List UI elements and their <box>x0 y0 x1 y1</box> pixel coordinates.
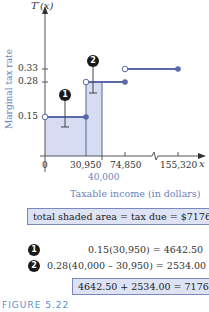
badge-1: 1 <box>59 89 71 101</box>
y-tick-028: 0.28 <box>18 76 38 86</box>
y-tick-015: 0.15 <box>18 111 38 121</box>
y-axis-label: Marginal tax rate <box>4 44 14 134</box>
eq-badge-1: 1 <box>28 244 40 256</box>
equation-1: 0.15(30,950) = 4642.50 <box>88 244 203 255</box>
total-box: total shaded area = tax due = $7176.50 <box>27 208 209 225</box>
badge-2: 2 <box>87 55 99 67</box>
x-axis-label: Taxable income (in dollars) <box>70 188 200 199</box>
equation-2: 0.28(40,000 – 30,950) = 2534.00 <box>47 260 206 271</box>
x-tick-74850: 74,850 <box>110 160 142 170</box>
eq-badge-2: 2 <box>28 260 40 272</box>
sum-box: 4642.50 + 2534.00 = 7176.50 <box>72 278 209 295</box>
x-tick-0: 0 <box>42 160 48 170</box>
figure-caption: FIGURE 5.22 <box>2 300 69 310</box>
x-axis-title: x <box>199 158 205 169</box>
y-axis-title: T′(x) <box>31 0 53 11</box>
y-tick-033: 0.33 <box>18 63 38 73</box>
axis-break-icon <box>152 152 158 160</box>
x-tick-40000: 40,000 <box>88 172 120 182</box>
tax-rate-step-chart <box>0 0 209 200</box>
x-tick-30950: 30,950 <box>70 160 102 170</box>
x-tick-155320: 155,320 <box>160 160 197 170</box>
